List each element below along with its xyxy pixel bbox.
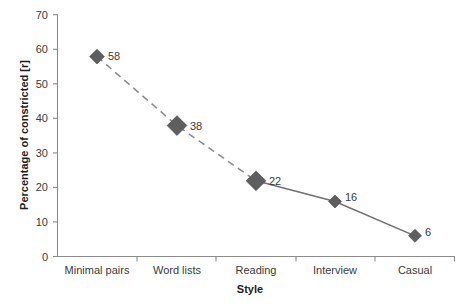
data-point-marker-1 [90, 49, 105, 64]
x-category-label-word-lists: Word lists [153, 264, 202, 276]
data-label-3: 22 [269, 175, 281, 187]
y-axis-title: Percentage of constricted [r] [18, 60, 30, 210]
data-point-marker-2 [167, 116, 187, 136]
y-tick-label-40: 40 [36, 112, 48, 124]
y-tick-label-60: 60 [36, 43, 48, 55]
data-label-2: 38 [190, 120, 202, 132]
x-axis-title: Style [237, 283, 263, 295]
series-line-solid [256, 181, 415, 236]
y-tick-label-0: 0 [42, 251, 48, 263]
y-tick-label-50: 50 [36, 78, 48, 90]
y-tick-label-30: 30 [36, 147, 48, 159]
x-category-label-interview: Interview [313, 264, 357, 276]
data-point-marker-4 [328, 195, 341, 208]
y-tick-label-70: 70 [36, 9, 48, 21]
chart-figure: 0 10 20 30 40 50 60 70 58 38 22 [0, 0, 467, 307]
data-label-5: 6 [425, 226, 431, 238]
y-tick-label-10: 10 [36, 216, 48, 228]
x-axis-ticks [137, 257, 455, 262]
x-category-label-reading: Reading [236, 264, 277, 276]
y-tick-label-20: 20 [36, 181, 48, 193]
data-point-markers [90, 49, 422, 242]
data-label-1: 58 [108, 50, 120, 62]
line-chart-canvas: 0 10 20 30 40 50 60 70 58 38 22 [0, 0, 467, 307]
data-point-marker-3 [246, 171, 266, 191]
x-category-label-minimal-pairs: Minimal pairs [65, 264, 130, 276]
y-axis-ticks [53, 15, 58, 257]
x-category-label-casual: Casual [398, 264, 432, 276]
data-point-marker-5 [408, 229, 421, 242]
data-label-4: 16 [345, 191, 357, 203]
